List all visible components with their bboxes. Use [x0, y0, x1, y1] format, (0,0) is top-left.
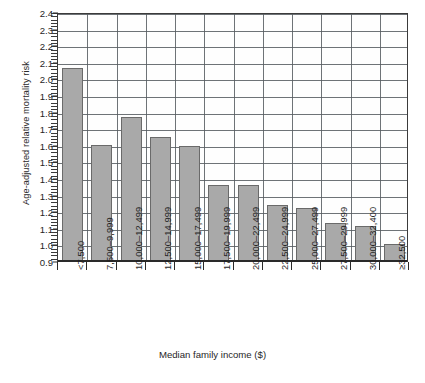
x-tick-label: <7,500	[76, 241, 86, 270]
x-tick-mark	[350, 262, 351, 270]
x-tick-label: 20,000–22,499	[251, 207, 261, 270]
x-tick-label: 17,500–19,999	[222, 207, 232, 270]
y-tick-mark	[53, 228, 58, 229]
x-tick-mark	[262, 262, 263, 270]
y-tick-mark	[53, 245, 58, 246]
x-tick-mark	[174, 262, 175, 270]
x-tick-label: 25,000–27,499	[310, 207, 320, 270]
x-tick-mark	[408, 262, 409, 270]
x-tick-mark	[116, 262, 117, 270]
bar	[62, 68, 83, 261]
x-tick-mark	[86, 262, 87, 270]
x-tick-label: 15,000–17,499	[193, 207, 203, 270]
y-tick-mark	[53, 62, 58, 63]
y-tick-mark	[53, 29, 58, 30]
x-tick-mark	[145, 262, 146, 270]
x-tick-mark	[320, 262, 321, 270]
x-axis-title: Median family income ($)	[0, 349, 425, 360]
x-tick-label: 22,500–24,999	[280, 207, 290, 270]
x-tick-mark	[57, 262, 58, 270]
x-tick-label: 7,500–9,999	[105, 217, 115, 270]
y-tick-mark	[53, 262, 58, 263]
y-tick-mark	[53, 145, 58, 146]
x-tick-mark	[379, 262, 380, 270]
x-tick-label: 30,000–32,400	[368, 207, 378, 270]
x-tick-mark	[233, 262, 234, 270]
y-tick-mark	[53, 13, 58, 14]
x-tick-label: 12,500–14,999	[163, 207, 173, 270]
y-tick-mark	[53, 112, 58, 113]
y-tick-mark	[53, 129, 58, 130]
x-tick-mark	[291, 262, 292, 270]
y-tick-mark	[53, 46, 58, 47]
y-tick-mark	[53, 179, 58, 180]
y-tick-mark	[53, 212, 58, 213]
x-axis-tick-labels: <7,5007,500–9,99910,000–12,49912,500–14,…	[0, 270, 425, 340]
y-tick-mark	[53, 162, 58, 163]
y-tick-mark	[53, 195, 58, 196]
y-tick-mark	[53, 79, 58, 80]
bar-chart-figure: Age-adjusted relative mortality risk 2.4…	[0, 0, 425, 383]
y-tick-mark	[53, 96, 58, 97]
x-tick-label: ≥32,500	[397, 236, 407, 270]
x-tick-label: 27,500–29,999	[339, 207, 349, 270]
x-tick-mark	[203, 262, 204, 270]
x-tick-label: 10,000–12,499	[134, 207, 144, 270]
